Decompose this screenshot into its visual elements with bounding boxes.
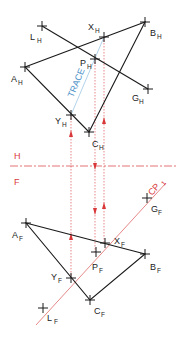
svg-text:L: L [30, 32, 35, 42]
svg-text:H: H [157, 33, 162, 40]
svg-text:H: H [87, 63, 92, 70]
fold-label-f: F [14, 177, 20, 187]
svg-text:H: H [37, 37, 42, 44]
svg-text:H: H [18, 79, 23, 86]
svg-text:A: A [12, 230, 18, 240]
svg-text:B: B [150, 262, 156, 272]
svg-text:F: F [58, 277, 62, 284]
svg-text:Y: Y [55, 116, 61, 126]
svg-text:F: F [157, 267, 161, 274]
svg-text:F: F [158, 209, 162, 216]
svg-text:H: H [139, 98, 144, 105]
arrow-up-icon [102, 202, 106, 209]
arrow-up-icon [69, 130, 73, 137]
svg-text:L: L [47, 313, 52, 323]
svg-text:C: C [94, 306, 101, 316]
svg-text:B: B [150, 28, 156, 38]
cutting-plane-label: CP [146, 181, 162, 197]
front-view-labels: GF AF XF PF BF YF CF LF [12, 204, 162, 325]
svg-text:F: F [19, 235, 23, 242]
svg-text:X: X [114, 236, 120, 246]
fold-label-h: H [14, 151, 21, 161]
svg-text:Y: Y [51, 272, 57, 282]
arrow-down-icon [93, 208, 97, 215]
svg-text:H: H [99, 144, 104, 151]
svg-text:A: A [11, 74, 17, 84]
svg-text:G: G [132, 93, 139, 103]
svg-text:H: H [95, 27, 100, 34]
arrow-up-icon [102, 117, 106, 124]
svg-text:H: H [62, 121, 67, 128]
svg-text:F: F [121, 241, 125, 248]
svg-text:F: F [99, 267, 103, 274]
trace-label: TRACE [66, 67, 87, 99]
svg-text:C: C [92, 139, 99, 149]
svg-text:F: F [101, 311, 105, 318]
svg-text:P: P [80, 58, 86, 68]
projection-arrows [69, 117, 106, 240]
svg-text:X: X [88, 22, 94, 32]
svg-text:F: F [54, 318, 58, 325]
cutting-plane-subscript: 1 [160, 179, 168, 187]
diagram-canvas: H F CP 1 TRACE [0, 0, 180, 339]
front-view-lines [26, 223, 145, 300]
top-view-lines [25, 22, 148, 132]
svg-text:P: P [92, 262, 98, 272]
arrow-down-icon [93, 163, 97, 170]
svg-text:G: G [151, 204, 158, 214]
